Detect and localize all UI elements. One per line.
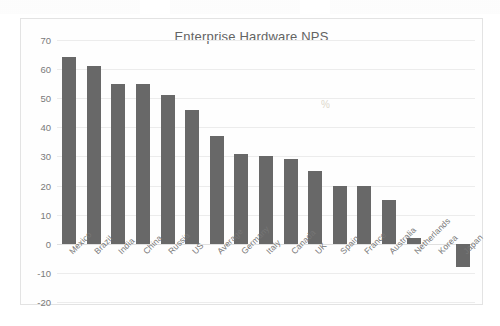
bar-slot <box>450 40 475 302</box>
chart-container: Enterprise Hardware NPS % 70605040302010… <box>20 18 483 305</box>
bar[interactable] <box>185 110 199 244</box>
bar-slot <box>205 40 230 302</box>
bar-slot <box>426 40 451 302</box>
y-axis-tick-label: 20 <box>40 180 51 191</box>
bar-slot <box>303 40 328 302</box>
gridline <box>57 302 475 303</box>
bar[interactable] <box>333 186 347 244</box>
y-axis-tick-label: 10 <box>40 209 51 220</box>
y-axis-tick-label: 30 <box>40 151 51 162</box>
bar[interactable] <box>210 136 224 244</box>
bar-slot <box>377 40 402 302</box>
y-axis-tick-label: 70 <box>40 35 51 46</box>
y-axis-tick-label: 60 <box>40 64 51 75</box>
bar-series <box>57 40 475 302</box>
bar-slot <box>57 40 82 302</box>
bar-slot <box>401 40 426 302</box>
bar-slot <box>229 40 254 302</box>
bar[interactable] <box>87 66 101 244</box>
bar-slot <box>82 40 107 302</box>
bar-slot <box>106 40 131 302</box>
bar[interactable] <box>111 84 125 244</box>
y-axis-tick-label: 50 <box>40 93 51 104</box>
bar-slot <box>278 40 303 302</box>
bar-slot <box>131 40 156 302</box>
bar[interactable] <box>161 95 175 243</box>
plot-area: 706050403020100-10-20 MexicoBrazilIndiaC… <box>57 40 475 302</box>
bar[interactable] <box>284 159 298 243</box>
y-axis-tick-label: 0 <box>46 238 51 249</box>
bar-slot <box>155 40 180 302</box>
bar-slot <box>180 40 205 302</box>
bar[interactable] <box>136 84 150 244</box>
bar[interactable] <box>62 57 76 243</box>
y-axis-tick-label: 40 <box>40 122 51 133</box>
scan-artifact-band <box>0 0 500 14</box>
y-axis-tick-label: -20 <box>37 297 51 308</box>
bar-slot <box>352 40 377 302</box>
bar-slot <box>254 40 279 302</box>
bar-slot <box>327 40 352 302</box>
y-axis-tick-label: -10 <box>37 267 51 278</box>
bar[interactable] <box>357 186 371 244</box>
